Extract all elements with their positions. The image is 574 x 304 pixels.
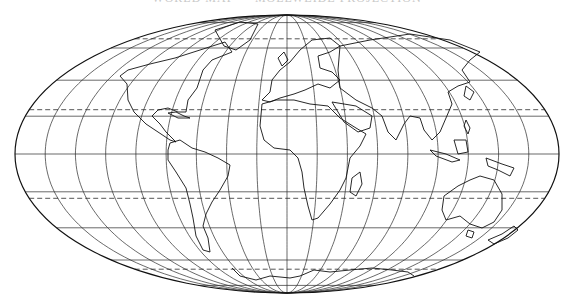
new-zealand-coastline [488,226,518,244]
arabia-coastline [332,102,372,132]
madagascar-coastline [350,172,362,196]
borneo-coastline [454,140,468,154]
coastlines [120,22,518,280]
new-guinea-coastline [486,158,514,176]
philippines-coastline [464,120,470,134]
antarctica-coastline [232,268,414,280]
cuba-coastline [168,112,190,118]
british-isles-coastline [278,52,288,66]
world-map [0,0,574,304]
australia-coastline [442,176,502,228]
south-america-coastline [168,140,230,252]
north-america-coastline [120,42,232,142]
europe-coastline [262,38,340,102]
indonesia-coastline [430,150,460,162]
asia-coastline [338,34,480,140]
graticule [15,15,559,293]
tasmania-coastline [466,230,474,238]
africa-coastline [260,100,366,220]
japan-coastline [464,86,474,100]
